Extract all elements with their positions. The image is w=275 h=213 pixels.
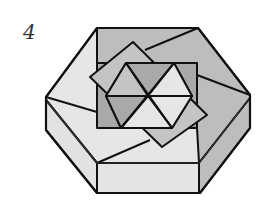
hexagon-box-diagram xyxy=(0,0,275,213)
front-side-face xyxy=(97,163,199,193)
